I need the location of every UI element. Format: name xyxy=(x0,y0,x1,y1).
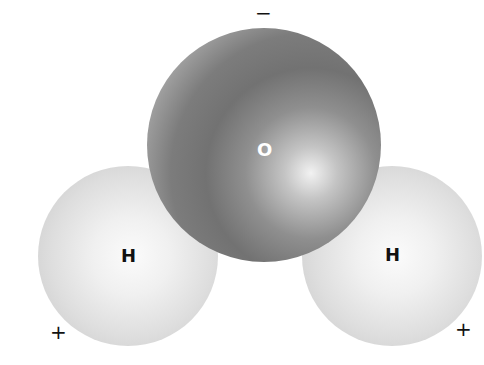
oxygen-label: O xyxy=(257,141,272,159)
hydrogen-right-label: H xyxy=(385,246,400,264)
negative-charge-sign: − xyxy=(255,3,272,23)
positive-charge-sign-left: + xyxy=(50,322,67,342)
hydrogen-left-label: H xyxy=(121,247,136,265)
positive-charge-sign-right: + xyxy=(455,319,472,339)
